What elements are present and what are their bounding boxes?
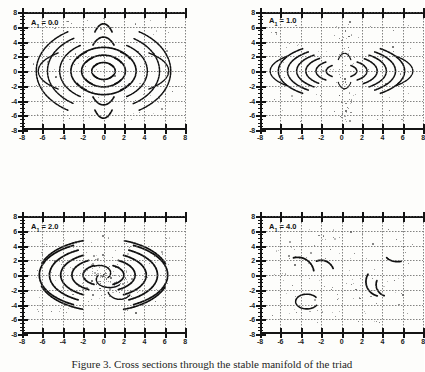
scatter-point — [166, 50, 168, 52]
y-axis-tick-label: -2 — [11, 82, 17, 89]
scatter-point — [163, 297, 164, 298]
scatter-point — [159, 293, 160, 294]
y-axis-minor-tick — [258, 60, 263, 61]
scatter-point — [317, 310, 318, 311]
scatter-point — [89, 117, 90, 118]
scatter-point — [359, 298, 361, 300]
x-axis-tick-top — [124, 8, 126, 18]
scatter-point — [282, 110, 283, 111]
x-axis-tick — [104, 328, 106, 338]
scatter-point — [68, 308, 69, 309]
y-axis-minor-tick — [258, 242, 263, 243]
y-axis-minor-tick — [258, 297, 263, 298]
scatter-point — [107, 63, 108, 64]
y-axis-minor-tick — [20, 268, 25, 269]
y-axis-minor-tick — [258, 301, 263, 302]
y-axis-tick-label: 2 — [251, 53, 255, 60]
scatter-point — [86, 90, 87, 91]
y-axis-tick-label: 8 — [251, 9, 255, 16]
scatter-point — [161, 288, 162, 289]
scatter-point — [154, 53, 155, 54]
x-axis-tick-label: 0 — [102, 134, 106, 141]
gridline-vertical — [301, 12, 302, 130]
gridline-vertical — [423, 216, 424, 334]
y-axis-tick — [256, 27, 266, 29]
x-axis-tick — [342, 328, 344, 338]
y-axis-minor-tick — [258, 45, 263, 46]
y-axis-tick-label: 2 — [13, 257, 17, 264]
plot-panel-a1-2: A1 = 2.0 86420-2-4-6-8-8-6-4-202468 — [22, 216, 185, 334]
x-axis-tick-top — [362, 8, 364, 18]
x-axis-tick-label: -6 — [277, 134, 283, 141]
figure-caption: Figure 3. Cross sections through the sta… — [0, 358, 424, 370]
scatter-point — [343, 88, 345, 90]
y-axis-minor-tick — [20, 45, 25, 46]
y-axis-minor-tick — [20, 19, 25, 20]
x-axis-tick-label: -6 — [277, 338, 283, 345]
scatter-point — [153, 113, 154, 114]
x-axis-tick-label: -2 — [318, 134, 324, 141]
gridline-vertical — [124, 12, 125, 130]
scatter-point — [155, 262, 156, 263]
x-axis-tick — [321, 124, 323, 134]
scatter-point — [291, 95, 293, 97]
x-axis-tick — [42, 124, 44, 134]
scatter-point — [147, 277, 148, 278]
scatter-point — [332, 287, 333, 288]
scatter-point — [294, 264, 296, 266]
scatter-point — [410, 48, 411, 49]
y-axis-tick-label: 8 — [251, 213, 255, 220]
scatter-point — [346, 112, 347, 113]
y-axis-tick — [18, 86, 28, 88]
y-axis-minor-tick — [258, 293, 263, 294]
scatter-point — [100, 281, 101, 282]
gridline-vertical — [362, 12, 363, 130]
x-axis-tick-label: 6 — [401, 338, 405, 345]
x-axis-tick — [42, 328, 44, 338]
x-axis-tick-label: -4 — [60, 338, 66, 345]
scatter-point — [349, 270, 350, 271]
y-axis-minor-tick — [20, 316, 25, 317]
scatter-point — [47, 61, 49, 63]
scatter-point — [155, 301, 156, 302]
gridline-vertical — [124, 216, 125, 334]
scatter-point — [395, 292, 396, 293]
y-axis-tick — [256, 71, 266, 73]
y-axis-tick — [256, 231, 266, 233]
y-axis-tick-label: 4 — [251, 38, 255, 45]
y-axis-tick — [18, 231, 28, 233]
scatter-point — [110, 277, 112, 279]
x-axis-tick-label: -8 — [19, 134, 25, 141]
scatter-point — [116, 281, 117, 282]
y-axis-minor-tick — [258, 34, 263, 35]
gridline-vertical — [165, 12, 166, 130]
scatter-point — [69, 118, 70, 119]
y-axis-tick-label: 8 — [13, 213, 17, 220]
x-axis-tick — [382, 328, 384, 338]
x-axis-tick-top — [144, 8, 146, 18]
y-axis-tick-label: -4 — [11, 97, 17, 104]
scatter-point — [87, 270, 88, 271]
scatter-point — [323, 276, 324, 277]
scatter-point — [106, 281, 107, 282]
scatter-point — [330, 249, 331, 250]
y-axis-tick-label: 6 — [251, 23, 255, 30]
y-axis-minor-tick — [20, 53, 25, 54]
y-axis-minor-tick — [258, 282, 263, 283]
scatter-point — [140, 66, 141, 67]
scatter-point — [353, 298, 354, 299]
scatter-point — [295, 256, 296, 257]
x-axis-tick-top — [280, 212, 282, 222]
x-axis-tick-top — [185, 8, 187, 18]
scatter-point — [276, 33, 278, 35]
y-axis-minor-tick — [258, 238, 263, 239]
y-axis-tick-label: 2 — [13, 53, 17, 60]
x-axis-tick — [144, 124, 146, 134]
scatter-point — [288, 255, 290, 257]
x-axis-tick-label: -2 — [318, 338, 324, 345]
x-axis-tick — [124, 328, 126, 338]
y-axis-minor-tick — [20, 34, 25, 35]
gridline-vertical — [83, 12, 84, 130]
y-axis-minor-tick — [20, 242, 25, 243]
scatter-point — [74, 64, 75, 65]
